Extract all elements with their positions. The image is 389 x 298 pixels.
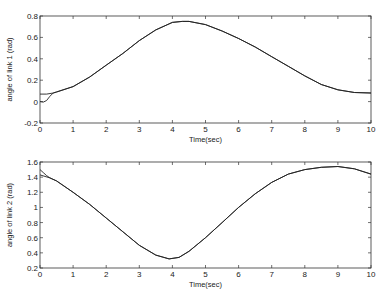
x-tick-label: 2	[104, 270, 109, 279]
x-tick-label: 3	[137, 270, 142, 279]
y-tick-label: 0.8	[27, 219, 39, 228]
y-tick-label: 0.2	[27, 76, 39, 85]
series-actual	[40, 167, 371, 259]
x-tick-label: 1	[71, 125, 76, 134]
axes-frame	[40, 162, 371, 268]
y-tick-label: 0.6	[27, 234, 39, 243]
x-tick-label: 1	[71, 270, 76, 279]
x-tick-label: 7	[269, 270, 274, 279]
plot-link2-angle: 0123456789100.20.40.60.811.21.41.6Time(s…	[5, 158, 376, 289]
x-tick-label: 9	[336, 270, 341, 279]
plot-link1-angle: 012345678910-0.200.20.40.60.8Time(sec)an…	[5, 12, 376, 144]
y-tick-label: 1	[34, 203, 39, 212]
y-tick-label: 0.2	[27, 264, 39, 273]
y-tick-label: 1.2	[27, 188, 39, 197]
figure: 012345678910-0.200.20.40.60.8Time(sec)an…	[0, 0, 389, 298]
x-tick-label: 5	[203, 270, 208, 279]
x-tick-label: 7	[269, 125, 274, 134]
x-tick-label: 0	[38, 125, 43, 134]
y-tick-label: 0.8	[27, 12, 39, 21]
x-tick-label: 2	[104, 125, 109, 134]
x-tick-label: 3	[137, 125, 142, 134]
x-axis-label: Time(sec)	[189, 280, 223, 289]
series-reference	[40, 167, 371, 259]
x-tick-label: 8	[303, 125, 308, 134]
x-tick-label: 0	[38, 270, 43, 279]
y-axis-label: angle of link 2 (rad)	[5, 182, 14, 247]
y-tick-label: 1.6	[27, 158, 39, 167]
y-tick-label: 0.4	[27, 55, 39, 64]
x-tick-label: 5	[203, 125, 208, 134]
y-tick-label: 0.4	[27, 249, 39, 258]
x-tick-label: 4	[170, 270, 175, 279]
x-axis-label: Time(sec)	[189, 135, 223, 144]
series-actual	[40, 21, 371, 102]
y-tick-label: 0.6	[27, 33, 39, 42]
y-axis-label: angle of link 1 (rad)	[5, 37, 14, 102]
axes-frame	[40, 16, 371, 123]
y-tick-label: 1.4	[27, 173, 39, 182]
x-tick-label: 8	[303, 270, 308, 279]
x-tick-label: 4	[170, 125, 175, 134]
x-tick-label: 10	[367, 125, 376, 134]
x-tick-label: 6	[236, 125, 241, 134]
x-tick-label: 6	[236, 270, 241, 279]
y-tick-label: 0	[34, 98, 39, 107]
x-tick-label: 10	[367, 270, 376, 279]
y-tick-label: -0.2	[24, 119, 38, 128]
series-reference	[40, 21, 371, 94]
x-tick-label: 9	[336, 125, 341, 134]
